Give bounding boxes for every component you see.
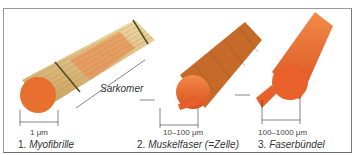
panel-1-name: Myofibrille [29,139,74,150]
panel-3-caption: 3. Faserbündel [258,139,325,150]
sarkomer-label: Sarkomer [100,83,143,94]
panel-2-name: Muskelfaser (=Zelle) [148,139,239,150]
panel-2-number: 2. [137,139,145,150]
myofibrille-dimension: 1 μm [30,128,48,137]
panel-1-caption: 1. Myofibrille [18,139,74,150]
muskelfaser-drawing [176,22,262,110]
muskelfaser-dimension: 10–100 μm [163,128,203,137]
faserbuendel-drawing [256,12,333,108]
panel-2-caption: 2. Muskelfaser (=Zelle) [137,139,239,150]
panel-1-number: 1. [18,139,26,150]
myofibrille-drawing [20,20,155,113]
faserbuendel-dimension: 100–1000 μm [258,128,307,137]
panel-3-number: 3. [258,139,266,150]
panel-3-name: Faserbündel [269,139,325,150]
